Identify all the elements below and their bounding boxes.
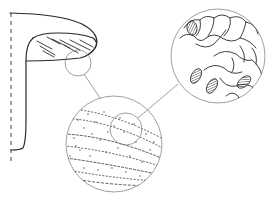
detail-marker-circle-2 (110, 113, 142, 145)
main-body (10, 13, 97, 150)
inset-cellular-tissue (171, 9, 265, 108)
detail-marker-circle-1 (65, 50, 91, 76)
inset-banded-texture (60, 96, 166, 192)
leader-line-2 (138, 84, 178, 118)
leader-line-1 (84, 74, 100, 98)
figure-svg (0, 0, 268, 198)
illustration: Line drawing: sectioned structure with t… (0, 0, 268, 198)
